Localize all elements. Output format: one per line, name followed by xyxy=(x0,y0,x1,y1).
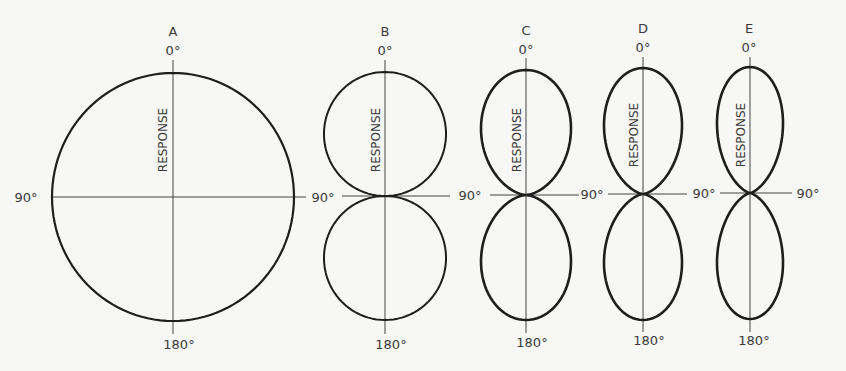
diagram-e: E 0° 180° 90° 90° RESPONSE xyxy=(692,21,819,348)
diagram-letter-label: D xyxy=(638,21,648,36)
diagram-letter-label: E xyxy=(745,21,753,36)
angle-label-0: 0° xyxy=(378,43,393,58)
angle-label-180: 180° xyxy=(738,333,769,348)
diagram-c: C 0° 180° 90° RESPONSE xyxy=(458,23,579,350)
polar-diagrams-canvas: A 0° 180° 90° RESPONSE B 0° 180° 90° RES… xyxy=(0,0,846,371)
response-axis-label: RESPONSE xyxy=(156,108,170,172)
response-axis-label: RESPONSE xyxy=(369,108,383,172)
angle-label-0: 0° xyxy=(166,43,181,58)
angle-label-90-left: 90° xyxy=(458,188,481,203)
angle-label-90-right: 90° xyxy=(796,186,819,201)
diagram-letter-label: B xyxy=(381,24,390,39)
angle-label-90-left: 90° xyxy=(14,190,37,205)
diagram-letter-label: A xyxy=(169,24,178,39)
angle-label-90-left: 90° xyxy=(311,190,334,205)
diagram-b: B 0° 180° 90° RESPONSE xyxy=(311,24,450,352)
response-axis-label: RESPONSE xyxy=(734,103,748,167)
angle-label-90-left: 90° xyxy=(692,186,715,201)
response-axis-label: RESPONSE xyxy=(627,103,641,167)
polar-response-figure: A 0° 180° 90° RESPONSE B 0° 180° 90° RES… xyxy=(0,0,846,371)
diagram-letter-label: C xyxy=(521,23,530,38)
angle-label-90-left: 90° xyxy=(580,187,603,202)
angle-label-0: 0° xyxy=(519,42,534,57)
angle-label-180: 180° xyxy=(163,337,194,352)
angle-label-180: 180° xyxy=(375,337,406,352)
response-axis-label: RESPONSE xyxy=(510,108,524,172)
angle-label-0: 0° xyxy=(742,40,757,55)
diagram-d: D 0° 180° 90° RESPONSE xyxy=(580,21,687,348)
diagram-a: A 0° 180° 90° RESPONSE xyxy=(14,24,306,352)
angle-label-180: 180° xyxy=(516,335,547,350)
angle-label-180: 180° xyxy=(633,333,664,348)
angle-label-0: 0° xyxy=(636,40,651,55)
